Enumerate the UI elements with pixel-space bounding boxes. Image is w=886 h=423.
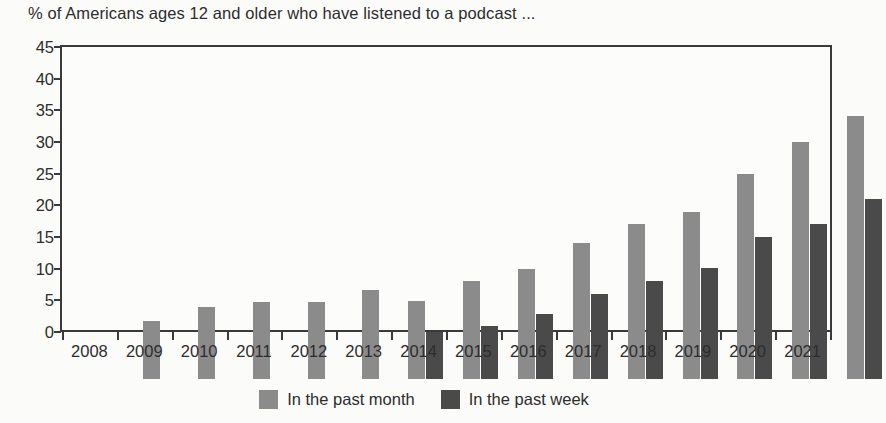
y-tick-label-35: 35 [0, 102, 54, 119]
x-tick-mark-1 [117, 332, 119, 340]
chart-title: % of Americans ages 12 and older who hav… [28, 4, 536, 23]
x-tick-mark-2 [172, 332, 174, 340]
chart-legend: In the past monthIn the past week [0, 382, 848, 416]
y-tick-label-15: 15 [0, 229, 54, 246]
x-axis-ticks [60, 332, 832, 342]
x-tick-label-2009: 2009 [126, 342, 163, 361]
x-tick-label-2019: 2019 [674, 342, 711, 361]
x-tick-mark-13 [775, 332, 777, 340]
x-tick-mark-12 [720, 332, 722, 340]
y-axis: 051015202530354045 [0, 45, 54, 332]
legend-entry-past-month[interactable]: In the past month [259, 390, 415, 409]
y-tick-label-10: 10 [0, 260, 54, 277]
x-tick-mark-10 [611, 332, 613, 340]
x-tick-label-2016: 2016 [510, 342, 547, 361]
y-tick-label-0: 0 [0, 324, 54, 341]
legend-swatch-month [259, 390, 278, 409]
x-tick-label-2010: 2010 [181, 342, 218, 361]
y-tick-label-40: 40 [0, 70, 54, 87]
x-tick-label-2018: 2018 [620, 342, 657, 361]
legend-entry-past-week[interactable]: In the past week [441, 390, 589, 409]
x-tick-label-2012: 2012 [290, 342, 327, 361]
x-tick-mark-3 [227, 332, 229, 340]
x-tick-label-2008: 2008 [71, 342, 108, 361]
y-tick-label-30: 30 [0, 134, 54, 151]
x-tick-label-2011: 2011 [236, 342, 271, 361]
y-tick-label-5: 5 [0, 292, 54, 309]
bar-2021-past-month [847, 116, 864, 379]
x-tick-label-2020: 2020 [729, 342, 766, 361]
x-tick-label-2017: 2017 [565, 342, 602, 361]
x-axis: 2008200920102011201220132014201520162017… [60, 342, 832, 368]
x-tick-mark-7 [446, 332, 448, 340]
legend-label-past-month: In the past month [287, 390, 415, 409]
legend-swatch-week [441, 390, 460, 409]
x-tick-mark-4 [281, 332, 283, 340]
x-tick-label-2015: 2015 [455, 342, 492, 361]
y-tick-label-45: 45 [0, 39, 54, 56]
x-tick-mark-0 [62, 332, 64, 340]
x-tick-mark-11 [665, 332, 667, 340]
x-tick-mark-8 [501, 332, 503, 340]
plot-area [60, 45, 832, 332]
y-tick-label-25: 25 [0, 165, 54, 182]
x-tick-mark-9 [556, 332, 558, 340]
x-tick-mark-14 [830, 332, 832, 340]
bar-2021-past-week [865, 199, 882, 380]
y-tick-label-20: 20 [0, 197, 54, 214]
x-tick-mark-5 [336, 332, 338, 340]
legend-label-past-week: In the past week [469, 390, 589, 409]
x-tick-label-2014: 2014 [400, 342, 437, 361]
x-tick-label-2013: 2013 [345, 342, 382, 361]
x-tick-label-2021: 2021 [784, 342, 821, 361]
x-tick-mark-6 [391, 332, 393, 340]
